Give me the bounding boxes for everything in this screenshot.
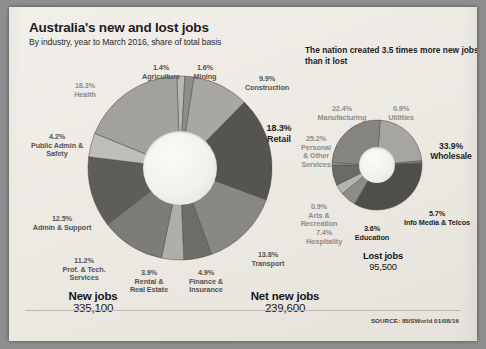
lost-jobs-donut-chart bbox=[331, 119, 423, 211]
label-construction: 9.9% Construction bbox=[237, 75, 297, 92]
lost-jobs-total-value: 95,500 bbox=[341, 261, 425, 272]
infographic-content: Australia's new and lost jobs By industr… bbox=[9, 7, 477, 341]
label-admin-support: 12.5% Admin & Support bbox=[25, 215, 99, 232]
label-agriculture-name: Agriculture bbox=[137, 73, 185, 82]
label-retail-pct: 18.3% bbox=[255, 123, 303, 134]
label-hospitality: 7.4% Hospitality bbox=[301, 229, 347, 246]
label-agriculture: 1.4% Agriculture bbox=[137, 64, 185, 81]
new-jobs-total-label: New jobs bbox=[41, 290, 145, 302]
label-prof-name-2: Services bbox=[53, 274, 115, 283]
label-personal-name-3: Services bbox=[289, 161, 343, 170]
label-wholesale: 33.9% Wholesale bbox=[421, 141, 477, 161]
label-public-name-2: Safety bbox=[21, 150, 93, 159]
label-transport-name: Transport bbox=[241, 260, 295, 269]
label-hospitality-name: Hospitality bbox=[301, 238, 347, 247]
page-subtitle: By industry, year to March 2016, share o… bbox=[29, 37, 221, 47]
label-education: 3.6% Education bbox=[347, 225, 397, 242]
label-arts-recreation: 0.9% Arts & Recreation bbox=[295, 203, 343, 229]
label-mining-name: Mining bbox=[185, 73, 225, 82]
label-public-admin-safety: 4.2% Public Admin & Safety bbox=[21, 133, 93, 159]
label-manufacturing-name: Manufacturing bbox=[309, 114, 375, 123]
label-construction-name: Construction bbox=[237, 84, 297, 93]
net-new-jobs-total-value: 239,600 bbox=[227, 302, 343, 314]
label-finance-name-2: Insurance bbox=[179, 286, 233, 295]
label-utilities-name: Utilities bbox=[381, 114, 421, 123]
lost-jobs-total: Lost jobs 95,500 bbox=[341, 250, 425, 272]
label-manufacturing: 22.4% Manufacturing bbox=[309, 105, 375, 122]
label-infomedia-name: Info Media & Telcos bbox=[387, 219, 477, 228]
new-jobs-donut-hole bbox=[143, 131, 217, 205]
label-personal-other-services: 25.2% Personal & Other Services bbox=[289, 135, 343, 169]
label-mining: 1.6% Mining bbox=[185, 64, 225, 81]
label-wholesale-name: Wholesale bbox=[421, 151, 477, 161]
label-wholesale-pct: 33.9% bbox=[421, 141, 477, 151]
infographic-card: Australia's new and lost jobs By industr… bbox=[9, 7, 477, 341]
net-new-jobs-total-label: Net new jobs bbox=[227, 290, 343, 302]
label-info-media-telcos: 5.7% Info Media & Telcos bbox=[387, 210, 477, 227]
label-arts-name-2: Recreation bbox=[295, 220, 343, 229]
label-education-name: Education bbox=[347, 234, 397, 243]
new-jobs-total-value: 335,100 bbox=[41, 302, 145, 314]
label-finance-insurance: 4.9% Finance & Insurance bbox=[179, 269, 233, 295]
label-admin-name: Admin & Support bbox=[25, 224, 99, 233]
label-prof-tech-services: 11.2% Prof. & Tech. Services bbox=[53, 257, 115, 283]
label-health: 18.3% Health bbox=[61, 82, 109, 99]
new-jobs-donut-chart bbox=[87, 75, 273, 261]
footer-divider bbox=[25, 310, 461, 311]
label-utilities: 0.9% Utilities bbox=[381, 105, 421, 122]
label-transport: 13.8% Transport bbox=[241, 251, 295, 268]
standfirst-text: The nation created 3.5 times more new jo… bbox=[305, 45, 477, 67]
source-credit: SOURCE: IBISWorld 01/08/16 bbox=[371, 317, 459, 324]
page-title: Australia's new and lost jobs bbox=[29, 20, 209, 35]
lost-jobs-total-label: Lost jobs bbox=[341, 250, 425, 261]
lost-jobs-donut-hole bbox=[359, 147, 395, 183]
label-health-name: Health bbox=[61, 91, 109, 100]
